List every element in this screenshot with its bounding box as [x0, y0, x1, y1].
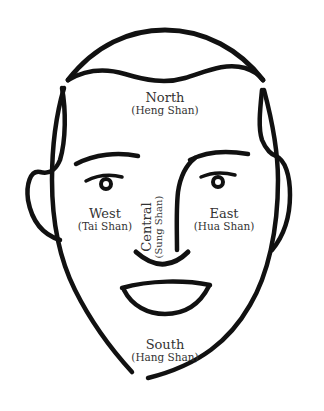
right-eyebrow	[190, 152, 248, 160]
label-north-title: North	[120, 91, 210, 105]
right-eye-pupil	[213, 177, 223, 187]
mouth-lower-lip	[124, 286, 209, 314]
label-east-mountain: (Hua Shan)	[187, 221, 261, 232]
label-north-mountain: (Heng Shan)	[120, 105, 210, 116]
left-eyebrow	[76, 154, 138, 164]
label-west: West (Tai Shan)	[72, 207, 138, 232]
nose-bridge	[177, 158, 195, 250]
label-west-mountain: (Tai Shan)	[72, 221, 138, 232]
label-east: East (Hua Shan)	[187, 207, 261, 232]
left-eye-pupil	[101, 179, 111, 189]
label-south: South (Hang Shan)	[120, 338, 210, 363]
face-diagram: North (Heng Shan) West (Tai Shan) Centra…	[0, 0, 324, 411]
label-west-title: West	[72, 207, 138, 221]
label-north: North (Heng Shan)	[120, 91, 210, 116]
label-central-mountain: (Sung Shan)	[154, 187, 165, 267]
label-south-mountain: (Hang Shan)	[120, 352, 210, 363]
label-east-title: East	[187, 207, 261, 221]
mouth-upper-lip	[122, 282, 210, 288]
label-central: Central (Sung Shan)	[140, 187, 164, 267]
hairline	[68, 66, 263, 81]
label-central-title: Central	[140, 187, 154, 267]
label-south-title: South	[120, 338, 210, 352]
